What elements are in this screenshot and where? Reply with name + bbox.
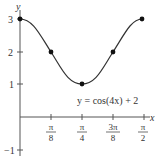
svg-text:4: 4 (80, 133, 85, 143)
chart: y x 3 2 1 −1 π 8 π 4 3π 8 π 2 y = cos(4x… (0, 0, 157, 164)
x-tick-label-3pi8: 3π 8 (106, 122, 120, 143)
svg-text:π: π (49, 122, 54, 132)
svg-text:π: π (80, 122, 85, 132)
svg-text:8: 8 (111, 133, 116, 143)
svg-text:3π: 3π (108, 122, 118, 132)
y-tick-label-1: 1 (9, 79, 14, 90)
svg-text:2: 2 (141, 133, 146, 143)
cosine-curve (20, 19, 142, 84)
svg-text:8: 8 (49, 133, 54, 143)
data-point (18, 17, 23, 22)
data-point (80, 82, 85, 87)
y-tick-label-3: 3 (8, 14, 13, 25)
data-point (140, 17, 145, 22)
equation-label: y = cos(4x) + 2 (77, 95, 138, 107)
x-tick-label-pi8: π 8 (46, 122, 56, 143)
x-tick-label-pi4: π 4 (77, 122, 87, 143)
svg-text:π: π (141, 122, 146, 132)
y-tick-label-neg1: −1 (4, 145, 15, 156)
y-tick-label-2: 2 (8, 47, 13, 58)
x-axis-label: x (149, 112, 155, 123)
y-axis-label: y (15, 1, 21, 12)
data-point (49, 50, 54, 55)
data-point (111, 50, 116, 55)
x-tick-label-pi2: π 2 (138, 122, 148, 143)
